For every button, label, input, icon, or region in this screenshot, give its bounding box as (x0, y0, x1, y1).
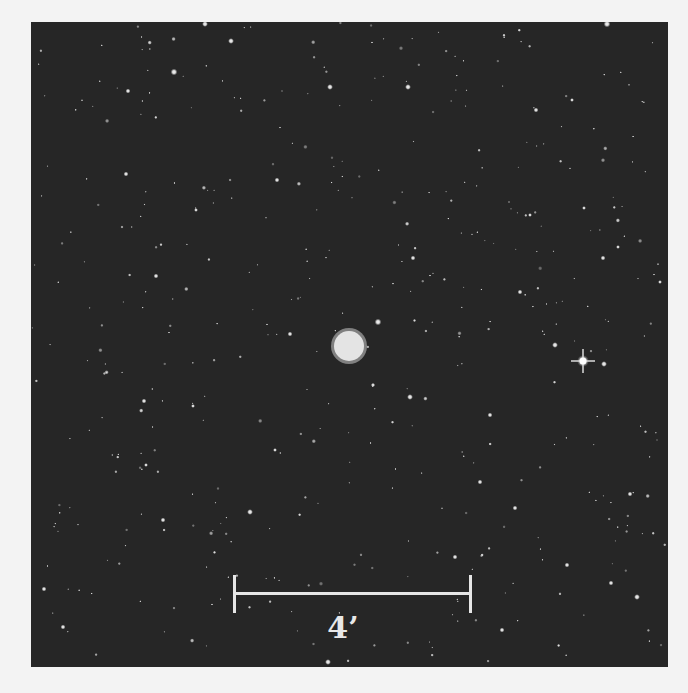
star-field (31, 22, 668, 667)
star-field-image: 4’ (31, 22, 668, 667)
scale-bar-label: 4’ (313, 610, 373, 645)
scale-bar (233, 575, 472, 613)
